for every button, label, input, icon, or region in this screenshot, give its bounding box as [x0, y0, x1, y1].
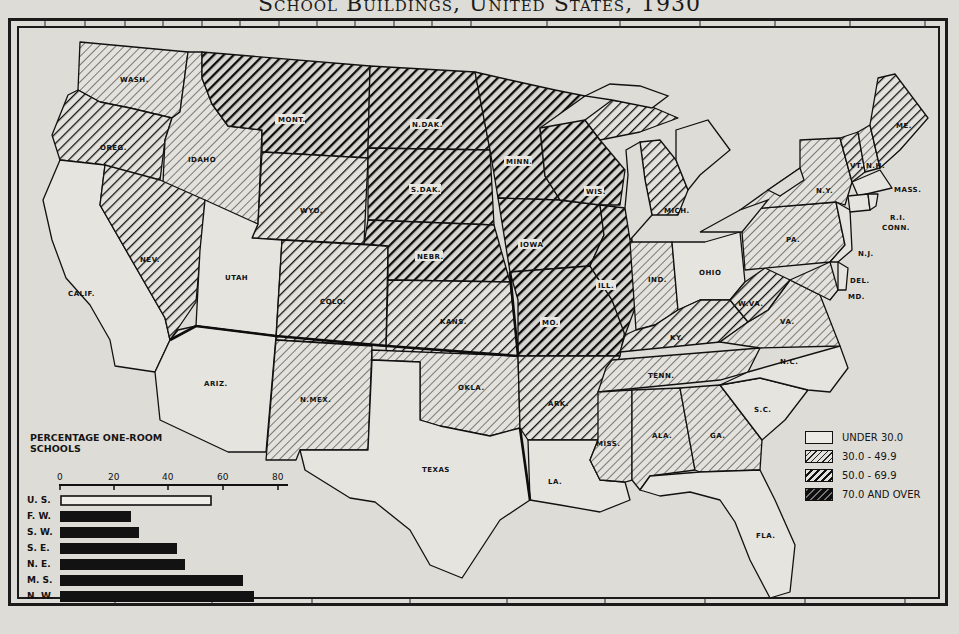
- label-vt: VT.: [850, 162, 863, 170]
- label-oreg: OREG.: [100, 144, 127, 152]
- bar-label-ne: N. E.: [27, 559, 51, 569]
- state-mich-up: [585, 100, 678, 140]
- legend-item-70-over: 70.0 AND OVER: [805, 485, 920, 504]
- bar-se: [60, 543, 177, 554]
- label-ny: N.Y.: [816, 187, 833, 195]
- label-ariz: ARIZ.: [204, 380, 228, 388]
- label-va: VA.: [780, 318, 795, 326]
- label-conn: CONN.: [882, 224, 910, 232]
- label-md: MD.: [848, 293, 865, 301]
- state-ndak: [368, 66, 490, 150]
- tick-0: 0: [57, 472, 63, 482]
- legend-item-under30: UNDER 30.0: [805, 428, 920, 447]
- label-nc: N.C.: [780, 358, 798, 366]
- bar-label-fw: F. W.: [27, 511, 51, 521]
- swatch-50-69-icon: [805, 469, 833, 482]
- state-ariz: [155, 326, 276, 452]
- label-ala: ALA.: [652, 432, 672, 440]
- label-ky: KY.: [670, 334, 684, 342]
- bar-label-se: S. E.: [27, 543, 50, 553]
- lake-huron: [676, 120, 730, 190]
- label-calif: CALIF.: [68, 290, 95, 298]
- bar-label-us: U. S.: [27, 495, 51, 505]
- label-kans: KANS.: [440, 318, 467, 326]
- label-ark: ARK.: [548, 400, 569, 408]
- bar-fw: [60, 511, 131, 522]
- legend-label: 50.0 - 69.9: [842, 470, 897, 481]
- label-nh: N.H.: [866, 162, 885, 170]
- state-colo: [276, 240, 388, 346]
- label-ga: GA.: [710, 432, 725, 440]
- label-ind: IND.: [648, 276, 667, 284]
- label-nj: N.J.: [858, 250, 874, 258]
- label-utah: UTAH: [225, 274, 248, 282]
- state-wyo: [252, 152, 368, 244]
- label-del: DEL.: [850, 277, 870, 285]
- legend-item-30-49: 30.0 - 49.9: [805, 447, 920, 466]
- inset-chart-title-line1: PERCENTAGE ONE-ROOM: [30, 432, 162, 443]
- state-conn: [848, 194, 870, 212]
- label-mich: MICH.: [664, 207, 690, 215]
- state-del: [838, 262, 848, 290]
- bar-ne: [60, 559, 185, 570]
- label-me: ME.: [896, 122, 912, 130]
- label-mo: MO.: [542, 319, 559, 327]
- legend-label: 70.0 AND OVER: [842, 489, 920, 500]
- label-wva: W.VA.: [738, 300, 763, 308]
- legend-label: 30.0 - 49.9: [842, 451, 897, 462]
- swatch-under30-icon: [805, 431, 833, 444]
- tick-40: 40: [162, 472, 174, 482]
- state-iowa: [498, 198, 604, 272]
- label-la: LA.: [548, 478, 562, 486]
- label-nev: NEV.: [140, 256, 160, 264]
- legend-label: UNDER 30.0: [842, 432, 903, 443]
- legend-item-50-69: 50.0 - 69.9: [805, 466, 920, 485]
- swatch-30-49-icon: [805, 450, 833, 463]
- tick-80: 80: [272, 472, 284, 482]
- bar-sw: [60, 527, 139, 538]
- label-mont: MONT.: [278, 116, 306, 124]
- bar-label-ms: M. S.: [27, 575, 52, 585]
- label-ndak: N.DAK.: [412, 121, 443, 129]
- label-wash: WASH.: [120, 76, 149, 84]
- label-sdak: S.DAK.: [411, 186, 441, 194]
- tick-60: 60: [217, 472, 229, 482]
- label-iowa: IOWA: [520, 241, 543, 249]
- label-nmex: N.MEX.: [300, 396, 331, 404]
- label-ohio: OHIO: [699, 269, 721, 277]
- bar-label-sw: S. W.: [27, 527, 53, 537]
- label-minn: MINN.: [506, 158, 532, 166]
- label-ill: ILL.: [598, 282, 614, 290]
- state-ri: [868, 194, 878, 210]
- us-choropleth-map: WASH. OREG. CALIF. IDAHO NEV. MONT. WYO.…: [0, 0, 959, 634]
- label-colo: COLO.: [320, 298, 346, 306]
- label-fla: FLA.: [756, 532, 775, 540]
- label-ri: R.I.: [890, 214, 905, 222]
- map-legend: UNDER 30.0 30.0 - 49.9 50.0 - 69.9 70.0 …: [805, 428, 920, 504]
- label-mass: MASS.: [894, 186, 921, 194]
- label-texas: TEXAS: [422, 466, 450, 474]
- swatch-70-over-icon: [805, 488, 833, 501]
- label-miss: MISS.: [596, 440, 621, 448]
- label-wis: WIS.: [586, 188, 606, 196]
- label-tenn: TENN.: [648, 372, 674, 380]
- state-me: [870, 74, 928, 168]
- inset-bar-chart: 0 20 40 60 80 U. S. F. W. S. W. S. E. N.…: [27, 472, 288, 602]
- inset-chart-title-line2: SCHOOLS: [30, 443, 162, 454]
- label-nebr: NEBR.: [417, 253, 444, 261]
- label-wyo: WYO.: [300, 207, 323, 215]
- label-idaho: IDAHO: [188, 156, 216, 164]
- bar-label-nw: N. W.: [27, 591, 54, 601]
- label-pa: PA.: [786, 236, 800, 244]
- bar-ms: [60, 575, 243, 586]
- inset-chart-title: PERCENTAGE ONE-ROOM SCHOOLS: [30, 432, 162, 454]
- tick-20: 20: [108, 472, 120, 482]
- label-okla: OKLA.: [458, 384, 485, 392]
- bar-us: [61, 496, 211, 505]
- label-sc: S.C.: [754, 406, 772, 414]
- bar-nw: [60, 591, 254, 602]
